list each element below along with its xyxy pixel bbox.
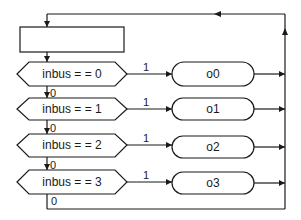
- decision-row-2: inbus = = 2 1 o2: [17, 132, 285, 158]
- decision-label: inbus = = 1: [42, 102, 102, 116]
- false-edge-label: 0: [51, 195, 57, 207]
- false-edge-label: 0: [50, 122, 56, 134]
- output-label: o1: [206, 102, 220, 116]
- true-edge-label: 1: [143, 132, 149, 144]
- output-label: o0: [206, 67, 220, 81]
- decision-label: inbus = = 2: [42, 138, 102, 152]
- arrow-right-icon: [279, 180, 285, 186]
- output-label: o2: [206, 140, 220, 154]
- true-edge-label: 1: [143, 61, 149, 73]
- arrow-down-icon: [44, 21, 50, 27]
- arrow-right-icon: [166, 106, 172, 112]
- arrow-right-icon: [166, 71, 172, 77]
- arrow-up-icon: [282, 28, 288, 35]
- arrow-left-icon: [214, 11, 221, 17]
- decision-row-1: inbus = = 1 1 o1: [17, 96, 285, 120]
- flowchart-canvas: inbus = = 0 1 o0 0 inbus = = 1 1 o1 0 in…: [0, 0, 301, 220]
- arrow-right-icon: [166, 142, 172, 148]
- output-label: o3: [206, 176, 220, 190]
- true-edge-label: 1: [143, 169, 149, 181]
- true-edge-label: 1: [143, 96, 149, 108]
- decision-row-3: inbus = = 3 1 o3: [17, 169, 285, 194]
- false-edge-label: 0: [50, 87, 56, 99]
- decision-label: inbus = = 0: [42, 67, 102, 81]
- arrow-right-icon: [279, 71, 285, 77]
- arrow-right-icon: [279, 144, 285, 150]
- decision-row-0: inbus = = 0 1 o0: [17, 61, 285, 86]
- arrow-right-icon: [279, 106, 285, 112]
- arrow-down-icon: [44, 56, 50, 62]
- decision-label: inbus = = 3: [42, 175, 102, 189]
- start-block: [20, 27, 124, 52]
- arrow-right-icon: [166, 179, 172, 185]
- false-edge-label: 0: [50, 159, 56, 171]
